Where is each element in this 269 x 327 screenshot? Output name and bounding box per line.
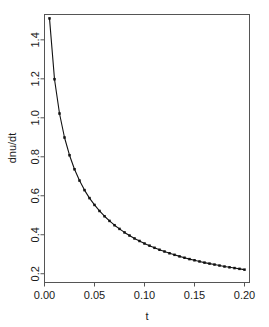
data-point	[148, 244, 151, 247]
data-point	[63, 136, 66, 139]
data-point	[58, 112, 61, 115]
data-point	[213, 263, 216, 266]
data-point	[233, 267, 236, 270]
data-point	[173, 254, 176, 257]
y-tick-label: 1.4	[29, 32, 41, 47]
x-tick-label: 0.05	[84, 289, 105, 301]
data-point	[158, 249, 161, 252]
data-point	[108, 220, 111, 223]
data-point	[113, 224, 116, 227]
data-point	[198, 260, 201, 263]
y-axis-title: dnu/dt	[6, 133, 18, 164]
data-point	[243, 268, 246, 271]
x-tick-label: 0.00	[34, 289, 55, 301]
data-point	[88, 197, 91, 200]
data-point	[238, 268, 241, 271]
data-point	[93, 204, 96, 207]
data-point	[178, 255, 181, 258]
y-tick-label: 0.2	[29, 266, 41, 281]
data-point	[78, 179, 81, 182]
y-tick-label: 1.0	[29, 110, 41, 125]
data-point	[123, 231, 126, 234]
data-point	[168, 252, 171, 255]
y-tick-label: 0.4	[29, 227, 41, 242]
plot-figure: 0.20.40.60.81.01.21.4 0.000.050.100.150.…	[0, 0, 269, 327]
x-tick-label: 0.15	[184, 289, 205, 301]
data-point	[203, 261, 206, 264]
data-point	[153, 247, 156, 250]
data-point	[133, 237, 136, 240]
data-point	[143, 242, 146, 245]
data-point	[98, 210, 101, 213]
data-point	[208, 262, 211, 265]
x-axis-title: t	[145, 310, 148, 322]
data-point	[183, 257, 186, 260]
y-tick-label: 0.6	[29, 188, 41, 203]
data-point	[223, 265, 226, 268]
chart-svg: 0.20.40.60.81.01.21.4 0.000.050.100.150.…	[0, 0, 269, 327]
data-point	[73, 168, 76, 171]
data-point	[128, 234, 131, 237]
data-point	[138, 240, 141, 243]
data-point	[188, 258, 191, 261]
data-point	[218, 264, 221, 267]
data-point	[68, 154, 71, 157]
data-point	[118, 228, 121, 231]
data-point	[228, 266, 231, 269]
y-tick-label: 0.8	[29, 149, 41, 164]
x-tick-label: 0.10	[134, 289, 155, 301]
data-point	[53, 78, 56, 81]
data-point	[163, 250, 166, 253]
data-point	[193, 259, 196, 262]
data-point	[103, 215, 106, 218]
data-point	[48, 17, 51, 20]
y-tick-label: 1.2	[29, 71, 41, 86]
data-point	[83, 189, 86, 192]
x-tick-label: 0.20	[234, 289, 255, 301]
